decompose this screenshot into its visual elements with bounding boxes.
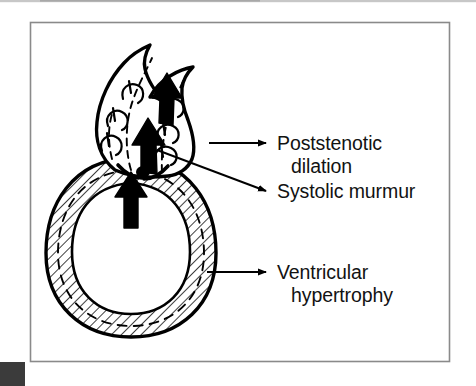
figure-root: Poststenotic dilation Systolic murmur Ve… xyxy=(0,0,476,386)
label-ventricular-hypertrophy-line2: hypertrophy xyxy=(291,284,393,306)
scan-artifact-block xyxy=(0,362,25,386)
label-poststenotic-dilation-line1: Poststenotic xyxy=(277,132,382,154)
label-systolic-murmur-line1: Systolic murmur xyxy=(277,180,416,202)
label-systolic-murmur: Systolic murmur xyxy=(277,180,416,202)
scan-line-top-dark xyxy=(40,0,260,2)
aortic-stenosis-figure: Poststenotic dilation Systolic murmur Ve… xyxy=(0,0,476,386)
label-ventricular-hypertrophy-line1: Ventricular xyxy=(277,261,369,283)
label-poststenotic-dilation-line2: dilation xyxy=(291,155,352,177)
